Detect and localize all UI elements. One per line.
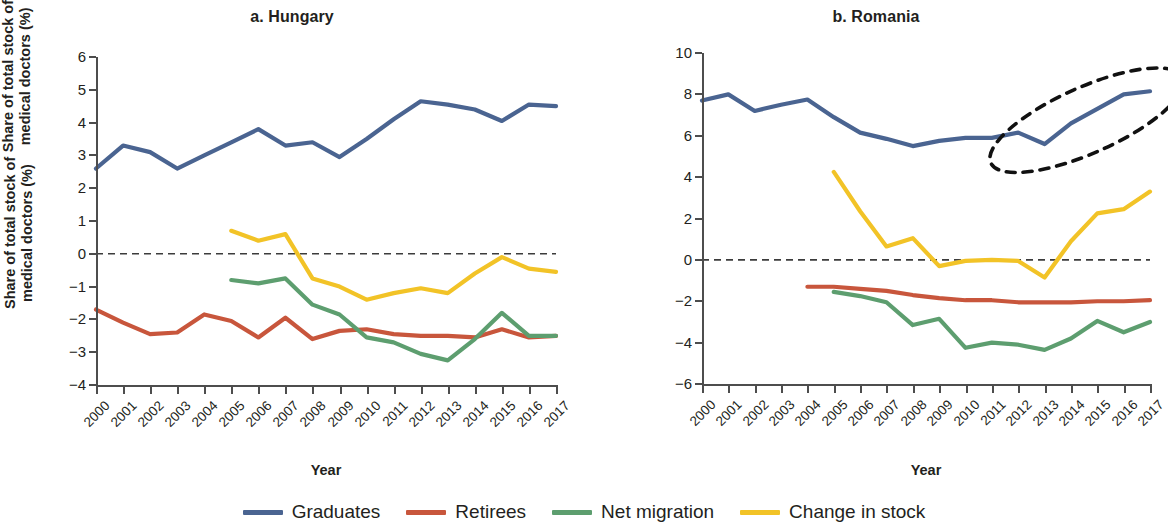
x-tick-romania bbox=[1045, 386, 1047, 393]
x-tick-romania bbox=[755, 386, 757, 393]
x-tick-hungary bbox=[231, 387, 233, 394]
x-tick-romania bbox=[781, 386, 783, 393]
y-tick-label-romania: −2 bbox=[646, 293, 692, 308]
lines-svg-romania bbox=[702, 53, 1150, 384]
y-tick-label-hungary: 5 bbox=[40, 82, 86, 97]
legend-item-graduates[interactable]: Graduates bbox=[243, 501, 381, 523]
y-tick-label-hungary: −1 bbox=[40, 279, 86, 294]
plot-area-hungary: 6543210−1−2−3−42000200120022003200420052… bbox=[96, 57, 556, 385]
y-tick-romania bbox=[695, 52, 702, 54]
series-line-graduates-hungary bbox=[96, 101, 556, 168]
y-tick-romania bbox=[695, 383, 702, 385]
y-tick-label-romania: 0 bbox=[646, 252, 692, 267]
y-axis-title-romania: Share of total stock of medical doctors … bbox=[0, 0, 34, 152]
legend-swatch-retirees bbox=[406, 510, 446, 515]
legend-swatch-graduates bbox=[243, 510, 283, 515]
y-tick-hungary bbox=[89, 351, 96, 353]
x-tick-hungary bbox=[312, 387, 314, 394]
x-tick-romania bbox=[860, 386, 862, 393]
x-tick-hungary bbox=[421, 387, 423, 394]
x-tick-romania bbox=[1071, 386, 1073, 393]
y-tick-label-hungary: −2 bbox=[40, 311, 86, 326]
y-tick-romania bbox=[695, 135, 702, 137]
series-line-graduates-romania bbox=[702, 91, 1150, 146]
x-tick-romania bbox=[992, 386, 994, 393]
y-tick-label-hungary: 4 bbox=[40, 115, 86, 130]
y-axis-line-romania bbox=[702, 53, 704, 384]
y-tick-hungary bbox=[89, 187, 96, 189]
y-tick-romania bbox=[695, 93, 702, 95]
y-tick-label-hungary: 3 bbox=[40, 147, 86, 162]
x-tick-romania bbox=[966, 386, 968, 393]
y-tick-hungary bbox=[89, 318, 96, 320]
x-axis-line-hungary bbox=[96, 385, 558, 387]
x-tick-romania bbox=[702, 386, 704, 393]
x-axis-title-romania: Year bbox=[826, 462, 1026, 478]
legend-swatch-change-in-stock bbox=[740, 510, 780, 515]
x-axis-line-romania bbox=[702, 384, 1152, 386]
x-tick-romania bbox=[939, 386, 941, 393]
y-tick-label-hungary: 6 bbox=[40, 49, 86, 64]
y-tick-label-hungary: 0 bbox=[40, 246, 86, 261]
series-line-change-in-stock-romania bbox=[834, 172, 1150, 278]
y-tick-label-romania: 10 bbox=[646, 45, 692, 60]
legend-item-retirees[interactable]: Retirees bbox=[406, 501, 526, 523]
x-tick-hungary bbox=[475, 387, 477, 394]
y-tick-hungary bbox=[89, 253, 96, 255]
legend-swatch-net-migration bbox=[552, 510, 592, 515]
legend-label-change-in-stock: Change in stock bbox=[789, 501, 925, 523]
y-tick-romania bbox=[695, 259, 702, 261]
series-line-change-in-stock-hungary bbox=[231, 231, 556, 300]
x-tick-romania bbox=[834, 386, 836, 393]
y-axis-line-hungary bbox=[96, 57, 98, 385]
legend-label-retirees: Retirees bbox=[455, 501, 526, 523]
x-tick-hungary bbox=[367, 387, 369, 394]
legend-label-net-migration: Net migration bbox=[601, 501, 714, 523]
y-tick-label-romania: −4 bbox=[646, 335, 692, 350]
panel-hungary: a. Hungary Share of total stock of medic… bbox=[0, 0, 584, 495]
legend-label-graduates: Graduates bbox=[292, 501, 381, 523]
y-axis-title-hungary: Share of total stock of medical doctors … bbox=[2, 118, 42, 348]
figure-root: a. Hungary Share of total stock of medic… bbox=[0, 0, 1168, 530]
x-tick-hungary bbox=[150, 387, 152, 394]
x-tick-hungary bbox=[123, 387, 125, 394]
panel-title-romania: b. Romania bbox=[584, 8, 1168, 26]
x-tick-hungary bbox=[285, 387, 287, 394]
x-tick-hungary bbox=[177, 387, 179, 394]
legend-item-net-migration[interactable]: Net migration bbox=[552, 501, 714, 523]
legend-item-change-in-stock[interactable]: Change in stock bbox=[740, 501, 925, 523]
legend: Graduates Retirees Net migration Change … bbox=[0, 496, 1168, 528]
x-tick-romania bbox=[886, 386, 888, 393]
x-tick-romania bbox=[913, 386, 915, 393]
y-tick-label-hungary: 1 bbox=[40, 213, 86, 228]
panel-title-hungary: a. Hungary bbox=[0, 8, 584, 26]
x-tick-romania bbox=[807, 386, 809, 393]
x-tick-hungary bbox=[394, 387, 396, 394]
y-tick-romania bbox=[695, 176, 702, 178]
plot-area-romania: 1086420−2−4−6200020012002200320042005200… bbox=[702, 53, 1150, 384]
x-tick-hungary bbox=[556, 387, 558, 394]
y-tick-hungary bbox=[89, 89, 96, 91]
x-tick-romania bbox=[1097, 386, 1099, 393]
x-tick-romania bbox=[728, 386, 730, 393]
y-tick-romania bbox=[695, 342, 702, 344]
y-tick-label-romania: 6 bbox=[646, 128, 692, 143]
y-tick-hungary bbox=[89, 220, 96, 222]
y-tick-label-romania: 8 bbox=[646, 86, 692, 101]
y-tick-label-romania: −6 bbox=[646, 376, 692, 391]
y-tick-hungary bbox=[89, 154, 96, 156]
x-tick-hungary bbox=[529, 387, 531, 394]
y-tick-hungary bbox=[89, 286, 96, 288]
y-tick-label-hungary: −4 bbox=[40, 377, 86, 392]
x-tick-hungary bbox=[96, 387, 98, 394]
x-tick-hungary bbox=[340, 387, 342, 394]
y-tick-hungary bbox=[89, 122, 96, 124]
x-tick-romania bbox=[1124, 386, 1126, 393]
x-axis-title-hungary: Year bbox=[226, 462, 426, 478]
y-tick-romania bbox=[695, 300, 702, 302]
x-tick-hungary bbox=[448, 387, 450, 394]
y-tick-label-romania: 4 bbox=[646, 169, 692, 184]
x-tick-hungary bbox=[258, 387, 260, 394]
y-tick-label-romania: 2 bbox=[646, 211, 692, 226]
y-tick-romania bbox=[695, 218, 702, 220]
